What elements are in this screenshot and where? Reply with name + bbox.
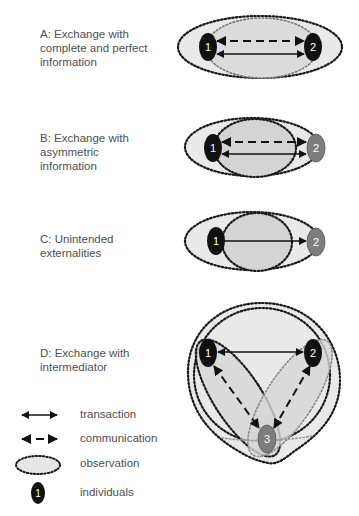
svg-text:3: 3 xyxy=(264,433,270,445)
individual-node-2: 2 xyxy=(304,339,322,367)
individual-node-3: 3 xyxy=(258,425,276,453)
individual-node-2: 2 xyxy=(307,228,325,256)
individual-node-1: 1 xyxy=(199,339,217,367)
svg-text:1: 1 xyxy=(35,488,41,499)
legend-communication-label: communication xyxy=(80,432,157,444)
svg-text:1: 1 xyxy=(210,142,216,154)
svg-text:2: 2 xyxy=(310,347,316,359)
panel-b-diagram: 1 2 xyxy=(185,118,325,177)
panel-c-diagram: 1 2 xyxy=(185,212,325,271)
observation-ellipse-inner xyxy=(206,18,318,78)
observation-ellipse-inner xyxy=(214,119,296,177)
individual-node-1: 1 xyxy=(207,227,225,255)
individual-node-1: 1 xyxy=(204,134,222,162)
svg-text:2: 2 xyxy=(310,41,316,53)
svg-text:2: 2 xyxy=(313,142,319,154)
legend-individuals-label: individuals xyxy=(80,486,134,498)
individual-node-1: 1 xyxy=(199,33,217,61)
legend-individual-icon: 1 xyxy=(31,482,45,504)
individual-node-2: 2 xyxy=(304,33,322,61)
panel-a-diagram: 1 2 xyxy=(178,16,342,78)
observation-ellipse-inner xyxy=(222,213,292,271)
panel-d-diagram: 1 2 3 xyxy=(181,303,347,468)
svg-text:1: 1 xyxy=(205,41,211,53)
legend-observation-label: observation xyxy=(80,457,139,469)
legend-transaction-label: transaction xyxy=(80,408,136,420)
svg-text:2: 2 xyxy=(313,236,319,248)
diagram-canvas: 1 2 1 2 1 2 xyxy=(0,0,359,516)
legend-observation-icon xyxy=(16,456,60,474)
svg-text:1: 1 xyxy=(213,235,219,247)
individual-node-2: 2 xyxy=(307,134,325,162)
legend: 1 xyxy=(16,415,60,504)
svg-text:1: 1 xyxy=(205,347,211,359)
